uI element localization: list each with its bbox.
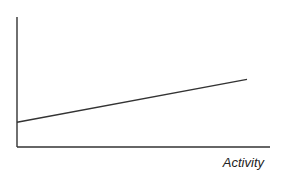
series-line	[17, 79, 247, 122]
x-axis-label: Activity	[212, 155, 264, 170]
line-chart	[0, 0, 285, 171]
